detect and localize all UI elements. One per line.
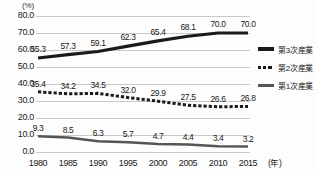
legend: 第3次産業 第2次産業 第1次産業	[258, 40, 317, 94]
data-value-label: 27.5	[175, 93, 201, 102]
x-axis-tick-label: 1990	[83, 159, 113, 168]
data-value-label: 35.4	[25, 80, 51, 89]
x-axis-tick-label: 2005	[173, 159, 203, 168]
x-axis-tick-label: 2010	[203, 159, 233, 168]
data-value-label: 34.2	[55, 82, 81, 91]
data-value-label: 9.3	[25, 124, 51, 133]
data-value-label: 4.7	[145, 132, 171, 141]
data-value-label: 65.4	[145, 28, 171, 37]
x-axis-tick-label: 2000	[143, 159, 173, 168]
data-value-label: 62.3	[115, 33, 141, 42]
data-value-label: 3.2	[235, 135, 261, 144]
legend-item-secondary: 第2次産業	[258, 58, 317, 76]
data-value-label: 55.3	[25, 45, 51, 54]
legend-item-tertiary: 第3次産業	[258, 40, 317, 58]
data-value-label: 34.5	[85, 81, 111, 90]
x-axis-tick-label: 2015	[233, 159, 263, 168]
line-chart: (%) 0.010.020.030.040.050.060.070.080.0 …	[0, 0, 317, 173]
legend-label-secondary: 第2次産業	[278, 62, 313, 73]
data-value-label: 4.4	[175, 133, 201, 142]
legend-label-primary: 第1次産業	[278, 80, 313, 91]
data-value-label: 70.0	[235, 20, 261, 29]
legend-swatch-solid-thick-icon	[258, 44, 274, 54]
data-value-label: 70.0	[205, 20, 231, 29]
data-value-label: 26.8	[235, 94, 261, 103]
legend-swatch-dotted-icon	[258, 62, 274, 72]
data-value-label: 6.3	[85, 129, 111, 138]
legend-label-tertiary: 第3次産業	[278, 44, 313, 55]
data-value-label: 32.0	[115, 86, 141, 95]
data-value-label: 8.5	[55, 126, 81, 135]
data-value-label: 59.1	[85, 39, 111, 48]
legend-item-primary: 第1次産業	[258, 76, 317, 94]
x-axis-tick-label: 1980	[23, 159, 53, 168]
legend-swatch-solid-medium-icon	[258, 80, 274, 90]
data-value-label: 68.1	[175, 23, 201, 32]
data-value-label: 26.6	[205, 95, 231, 104]
x-axis-tick-label: 1995	[113, 159, 143, 168]
data-value-label: 57.3	[55, 42, 81, 51]
data-value-label: 5.7	[115, 130, 141, 139]
data-value-label: 29.9	[145, 89, 171, 98]
x-axis-unit-label: (年)	[268, 159, 281, 168]
data-value-label: 3.4	[205, 134, 231, 143]
x-axis-tick-label: 1985	[53, 159, 83, 168]
